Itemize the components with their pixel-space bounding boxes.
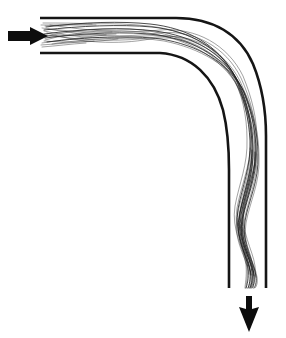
- channel-inner-wall: [40, 53, 229, 288]
- fiber-bundle: [41, 22, 259, 288]
- channel-outer-wall: [40, 18, 266, 288]
- direction-arrows: [8, 27, 259, 332]
- figure-canvas: [0, 0, 286, 338]
- outlet-direction-arrow: [239, 296, 259, 332]
- illustration-svg: [0, 0, 286, 338]
- channel-walls: [40, 18, 266, 288]
- inlet-direction-arrow: [8, 27, 48, 45]
